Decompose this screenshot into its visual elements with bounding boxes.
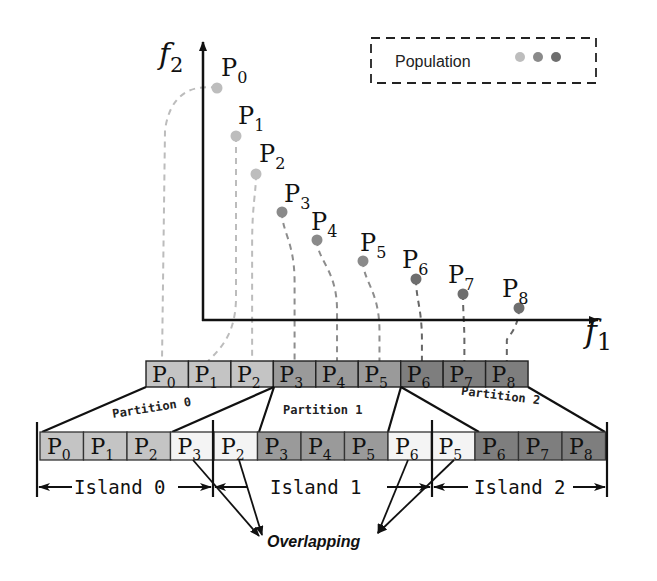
y-axis-label: f2 <box>157 36 183 77</box>
diagram-canvas: f2 f1 Population P0P1P2P3P4P5P6P7P8 P0P1… <box>0 0 657 581</box>
array-cell: P5 <box>358 361 400 391</box>
axes: f2 f1 <box>157 36 612 356</box>
island-partition-diagram: f2 f1 Population P0P1P2P3P4P5P6P7P8 P0P1… <box>0 0 657 581</box>
connector-line <box>363 261 379 361</box>
island-0-label: Island 0 <box>74 476 166 498</box>
island-cell: P3 <box>171 432 215 463</box>
legend: Population <box>371 38 596 83</box>
island-cell: P2 <box>127 432 171 463</box>
partition-0-label: Partition 0 <box>111 395 192 421</box>
island-cell: P6 <box>475 432 519 463</box>
array-cell: P8 <box>486 361 528 391</box>
point-P4: P4 <box>311 208 337 246</box>
island-row: P0P1P2P3P2P3P4P5P6P5P6P7P8 <box>40 432 606 463</box>
array-cell: P0 <box>146 361 188 391</box>
point-P0: P0 <box>212 54 248 94</box>
island-cell: P5 <box>345 432 389 463</box>
island-2-label: Island 2 <box>474 476 566 498</box>
point-label: P3 <box>284 180 310 213</box>
array-cell: P4 <box>316 361 358 391</box>
array-cell: P2 <box>231 361 273 391</box>
pareto-points: P0P1P2P3P4P5P6P7P8 <box>212 54 529 314</box>
partition-1-label: Partition 1 <box>283 403 362 417</box>
legend-dot-medium <box>533 52 543 62</box>
connector-line <box>282 212 295 361</box>
legend-dot-light <box>515 52 525 62</box>
legend-dot-dark <box>551 52 561 62</box>
legend-label: Population <box>395 53 471 70</box>
island-cell: P8 <box>562 432 606 463</box>
connector-line <box>317 240 337 361</box>
point-P6: P6 <box>402 246 428 285</box>
point-P8: P8 <box>502 275 528 314</box>
connector-line <box>252 174 256 361</box>
overlapping-label: Overlapping <box>267 533 361 550</box>
island-cell: P4 <box>301 432 345 463</box>
island-cell: P7 <box>519 432 563 463</box>
island-cell: P3 <box>258 432 302 463</box>
point-P3: P3 <box>277 180 311 218</box>
connector-line <box>463 294 464 361</box>
point-label: P2 <box>259 140 285 173</box>
array-cell: P3 <box>273 361 315 391</box>
connector-line <box>507 308 519 361</box>
point-label: P1 <box>238 102 264 135</box>
point-P7: P7 <box>448 261 474 300</box>
point-label: P0 <box>221 54 247 87</box>
overlap-arrows <box>193 460 454 536</box>
point-P1: P1 <box>231 102 265 142</box>
island-cell: P2 <box>214 432 258 463</box>
island-cell: P6 <box>388 432 432 463</box>
array-cell: P1 <box>188 361 230 391</box>
island-cell: P1 <box>84 432 128 463</box>
connector-line <box>208 136 236 361</box>
point-P2: P2 <box>251 140 286 180</box>
point-label: P8 <box>502 275 528 308</box>
island-cell: P0 <box>40 432 84 463</box>
point-P5: P5 <box>358 229 387 267</box>
island-cell: P5 <box>432 432 476 463</box>
island-1-label: Island 1 <box>270 476 362 498</box>
x-axis-label: f1 <box>583 312 612 356</box>
array-cell: P6 <box>401 361 443 391</box>
